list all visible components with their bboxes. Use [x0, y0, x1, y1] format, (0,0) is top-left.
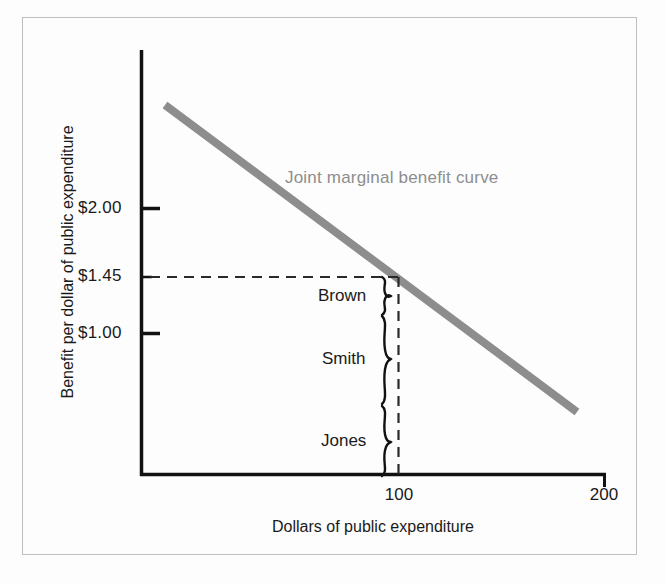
brace-label-smith: Smith — [322, 349, 365, 369]
brace-jones — [382, 406, 391, 476]
y-tick-label-200: $2.00 — [78, 198, 122, 218]
y-axis-title: Benefit per dollar of public expenditure — [59, 125, 77, 398]
brace-brown — [382, 277, 391, 315]
joint-marginal-benefit-curve — [165, 105, 577, 412]
curve-annotation-label: Joint marginal benefit curve — [285, 168, 499, 188]
y-tick-label-100: $1.00 — [78, 323, 122, 343]
x-tick-label-200: 200 — [590, 485, 618, 505]
x-tick-label-100: 100 — [385, 485, 413, 505]
x-axis-title: Dollars of public expenditure — [272, 518, 474, 536]
brace-smith — [382, 316, 391, 404]
chart-figure: $2.00 $1.45 $1.00 100 200 Benefit per do… — [0, 0, 666, 583]
brace-label-jones: Jones — [321, 431, 366, 451]
brace-label-brown: Brown — [318, 286, 366, 306]
y-tick-label-145: $1.45 — [78, 266, 122, 286]
